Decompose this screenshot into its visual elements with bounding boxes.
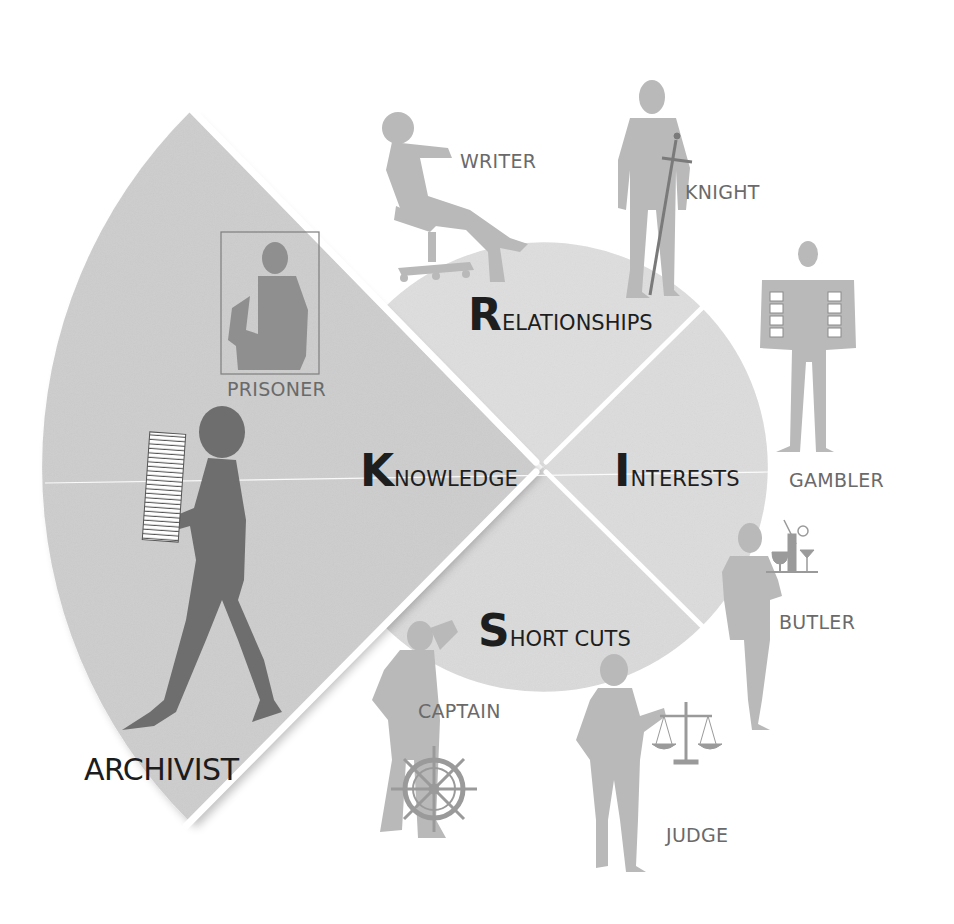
role-label-butler: BUTLER: [779, 611, 855, 633]
role-label-writer: WRITER: [460, 150, 536, 172]
role-label-gambler: GAMBLER: [789, 469, 884, 491]
paper-stack-icon: [142, 432, 185, 542]
diagram-canvas: RELATIONSHIPS KNOWLEDGE INTERESTS SHORT …: [0, 0, 954, 924]
role-label-archivist: ARCHIVIST: [84, 752, 240, 787]
role-label-judge: JUDGE: [665, 824, 728, 846]
role-label-captain: CAPTAIN: [418, 700, 501, 722]
role-label-prisoner: PRISONER: [227, 378, 326, 400]
gambler-silhouette-icon: [760, 241, 856, 452]
role-label-knight: KNIGHT: [685, 181, 760, 203]
